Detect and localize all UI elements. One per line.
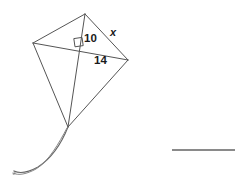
kite-tail-inner-curve	[13, 128, 67, 174]
right-angle-square	[74, 37, 83, 46]
right-angle-icon	[74, 37, 83, 46]
figure-canvas: 10 14 x	[0, 0, 235, 193]
measurement-label-10: 10	[84, 33, 97, 45]
kite-edge-bottom-left	[33, 43, 68, 127]
measurement-label-x: x	[110, 27, 116, 38]
measurement-label-14: 14	[94, 55, 107, 67]
kite-edge-top-left	[33, 14, 85, 43]
kite-diagram-svg	[0, 0, 235, 193]
kite-diagonal-vertical-spine	[68, 14, 85, 127]
kite-tail	[13, 127, 68, 174]
